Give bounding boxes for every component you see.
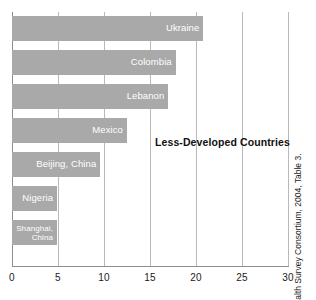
- source-note-container: Source: The WHO World Mental Health Surv…: [290, 0, 316, 300]
- bar[interactable]: Colombia: [12, 50, 176, 75]
- bar-label: Beijing, China: [36, 152, 96, 177]
- bar-label: Shanghai,China: [16, 220, 53, 245]
- tick-label-20: 20: [190, 272, 202, 283]
- bar-row[interactable]: Nigeria: [12, 186, 288, 211]
- bar[interactable]: Mexico: [12, 118, 127, 143]
- bar-label: Lebanon: [127, 84, 165, 109]
- bar[interactable]: Ukraine: [12, 16, 203, 41]
- group-annotation-label: Less-Developed Countries: [155, 136, 290, 148]
- bar-row[interactable]: Lebanon: [12, 84, 288, 109]
- source-note: Source: The WHO World Mental Health Surv…: [293, 153, 303, 300]
- tick-label-5: 5: [55, 272, 61, 283]
- bar[interactable]: Shanghai,China: [12, 220, 57, 245]
- tick-label-25: 25: [236, 272, 248, 283]
- bar-label-line: Beijing, China: [36, 159, 96, 170]
- value-axis-line: [12, 266, 289, 267]
- bar-row[interactable]: Colombia: [12, 50, 288, 75]
- bar-label-line: Lebanon: [127, 91, 165, 102]
- tick-label-15: 15: [144, 272, 156, 283]
- bar[interactable]: Nigeria: [12, 186, 57, 211]
- bar-label: Mexico: [92, 118, 123, 143]
- chart-figure: UkraineColombiaLebanonMexicoBeijing, Chi…: [0, 0, 316, 300]
- bar-label: Colombia: [131, 50, 172, 75]
- bar-label: Ukraine: [166, 16, 199, 41]
- bar-row[interactable]: Ukraine: [12, 16, 288, 41]
- bar[interactable]: Lebanon: [12, 84, 168, 109]
- bar[interactable]: Beijing, China: [12, 152, 100, 177]
- tick-label-10: 10: [98, 272, 110, 283]
- bar-label-line: Colombia: [131, 57, 172, 68]
- bar-label-line: Shanghai,: [16, 224, 53, 233]
- bar-label: Nigeria: [22, 186, 53, 211]
- bar-label-line: Nigeria: [22, 193, 53, 204]
- bar-label-line: Mexico: [92, 125, 123, 136]
- tick-label-0: 0: [9, 272, 15, 283]
- bar-row[interactable]: Beijing, China: [12, 152, 288, 177]
- bar-label-line: China: [32, 233, 53, 242]
- bar-row[interactable]: Shanghai,China: [12, 220, 288, 245]
- bar-label-line: Ukraine: [166, 23, 199, 34]
